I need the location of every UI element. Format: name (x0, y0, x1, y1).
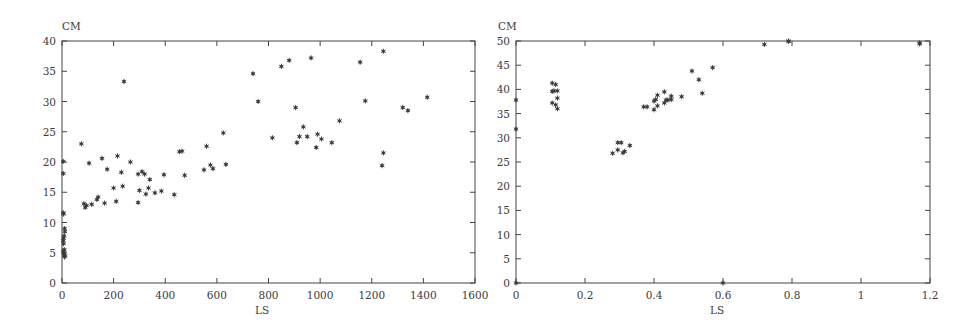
data-point (137, 188, 142, 193)
data-point (690, 68, 695, 73)
data-point (514, 126, 519, 131)
y-tick-label: 15 (497, 204, 510, 216)
y-tick-label: 0 (49, 277, 56, 289)
data-point (400, 105, 405, 110)
data-point (208, 162, 213, 167)
data-point (122, 79, 127, 84)
y-tick-label: 25 (43, 126, 56, 138)
x-tick-label: 600 (207, 289, 227, 301)
y-tick-label: 25 (497, 156, 510, 168)
data-point (100, 156, 105, 161)
x-tick-label: 0 (513, 289, 520, 301)
data-point (669, 94, 674, 99)
x-tick-label: 800 (258, 289, 278, 301)
data-point (172, 192, 177, 197)
y-tick-label: 20 (497, 180, 510, 192)
data-point (337, 118, 342, 123)
left-y-axis-label: CM (62, 20, 81, 32)
data-point (153, 190, 158, 195)
data-point (111, 185, 116, 190)
data-point (148, 177, 153, 182)
data-point (641, 104, 646, 109)
y-tick-label: 40 (497, 83, 510, 95)
data-point (202, 167, 207, 172)
data-point (555, 96, 560, 101)
data-point (251, 71, 256, 76)
data-point (710, 65, 715, 70)
data-point (204, 144, 209, 149)
y-tick-label: 35 (43, 65, 56, 77)
data-point (662, 89, 667, 94)
data-point (652, 107, 657, 112)
y-tick-label: 15 (43, 186, 56, 198)
data-point (256, 99, 261, 104)
data-point (128, 159, 133, 164)
chart-right-canvas: 00.20.40.60.811.205101520253035404550 CM… (485, 0, 971, 333)
data-point (159, 188, 164, 193)
data-point (679, 94, 684, 99)
data-point (297, 134, 302, 139)
x-tick-label: 400 (155, 289, 175, 301)
y-tick-label: 0 (503, 277, 510, 289)
data-point (315, 132, 320, 137)
x-tick-label: 0.2 (577, 289, 594, 301)
data-point (319, 136, 324, 141)
data-point (314, 145, 319, 150)
x-tick-label: 1200 (358, 289, 385, 301)
y-tick-label: 45 (497, 59, 510, 71)
left-data-points (61, 49, 429, 260)
data-point (380, 163, 385, 168)
data-point (224, 162, 229, 167)
right-y-axis-label: CM (498, 20, 517, 32)
data-point (425, 95, 430, 100)
data-point (514, 97, 519, 102)
data-point (616, 147, 621, 152)
data-point (87, 161, 92, 166)
data-point (295, 140, 300, 145)
data-point (146, 185, 151, 190)
x-tick-label: 1000 (307, 289, 334, 301)
data-point (329, 140, 334, 145)
data-point (381, 150, 386, 155)
chart-left-canvas: 0200400600800100012001400160005101520253… (0, 0, 490, 333)
x-tick-label: 0.4 (646, 289, 663, 301)
data-point (279, 64, 284, 69)
data-point (406, 108, 411, 113)
left-axes: 0200400600800100012001400160005101520253… (43, 35, 489, 301)
scatter-chart-right: 00.20.40.60.811.205101520253035404550 CM… (485, 0, 971, 333)
data-point (616, 140, 621, 145)
y-tick-label: 40 (43, 35, 56, 47)
data-point (610, 151, 615, 156)
data-point (628, 143, 633, 148)
data-point (645, 104, 650, 109)
x-tick-label: 1 (858, 289, 865, 301)
x-tick-label: 0.8 (784, 289, 801, 301)
data-point (762, 42, 767, 47)
y-tick-label: 50 (497, 35, 510, 47)
data-point (115, 153, 120, 158)
x-tick-label: 1.2 (922, 289, 939, 301)
y-tick-label: 20 (43, 156, 56, 168)
data-point (293, 105, 298, 110)
data-point (79, 141, 84, 146)
x-tick-label: 200 (104, 289, 124, 301)
data-point (119, 170, 124, 175)
data-point (136, 172, 141, 177)
right-data-points (514, 38, 922, 285)
data-point (550, 100, 555, 105)
y-tick-label: 5 (503, 253, 510, 265)
data-point (182, 173, 187, 178)
left-plot-frame (62, 41, 475, 283)
x-tick-label: 0.6 (715, 289, 732, 301)
y-tick-label: 10 (497, 229, 510, 241)
data-point (305, 134, 310, 139)
data-point (301, 124, 306, 129)
data-point (619, 140, 624, 145)
right-plot-frame (516, 41, 930, 283)
right-axes: 00.20.40.60.811.205101520253035404550 (497, 35, 939, 301)
scatter-chart-left: 0200400600800100012001400160005101520253… (0, 0, 490, 333)
data-point (363, 98, 368, 103)
data-point (162, 172, 167, 177)
data-point (221, 130, 226, 135)
data-point (114, 199, 119, 204)
